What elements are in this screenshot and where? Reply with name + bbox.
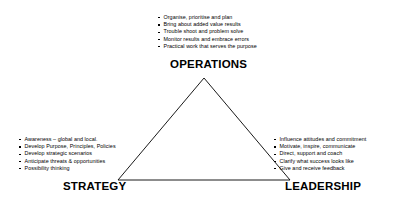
list-item: Develop Purpose, Principles, Policies [19,143,116,150]
list-item: Practical work that serves the purpose [158,43,257,50]
list-item: Direct, support and coach [274,150,366,157]
diagram-canvas: Organise, prioritise and plan Bring abou… [0,0,405,206]
list-item: Possibility thinking [19,165,116,172]
list-item: Give and receive feedback [274,165,366,172]
list-item: Develop strategic scenarios [19,150,116,157]
leadership-bullet-list: Influence attitudes and commitment Motiv… [274,136,366,172]
list-item: Clarify what success looks like [274,158,366,165]
list-item: Bring about added value results [158,21,257,28]
operations-bullet-list: Organise, prioritise and plan Bring abou… [158,14,257,50]
vertex-label-leadership: LEADERSHIP [285,180,361,192]
list-item: Organise, prioritise and plan [158,14,257,21]
triangle-outline [118,78,290,180]
list-item: Trouble shoot and problem solve [158,28,257,35]
list-item: Influence attitudes and commitment [274,136,366,143]
strategy-bullet-list: Awareness – global and local. Develop Pu… [19,136,116,172]
list-item: Awareness – global and local. [19,136,116,143]
list-item: Anticipate threats & opportunities [19,158,116,165]
list-item: Monitor results and embrace errors [158,36,257,43]
vertex-label-operations: OPERATIONS [170,58,247,70]
list-item: Motivate, inspire, communicate [274,143,366,150]
vertex-label-strategy: STRATEGY [63,180,126,192]
